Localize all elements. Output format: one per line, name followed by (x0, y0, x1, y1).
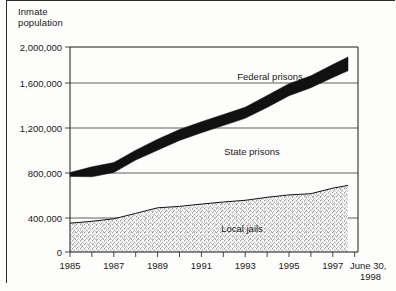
x-tick-label: 1993 (235, 260, 256, 271)
x-axis-tick-labels: 1985 1987 1989 1991 1993 1995 1997 (59, 260, 343, 271)
x-tick-label: 1987 (103, 260, 124, 271)
local-jails-area (70, 185, 348, 252)
y-tick-label: 400,000 (28, 213, 62, 224)
inmate-population-chart-figure: Inmate population (0, 0, 396, 291)
y-tick-label: 1,200,000 (20, 123, 62, 134)
x-tick-label: 1997 (322, 260, 343, 271)
y-tick-marks (65, 47, 70, 252)
x-axis-end-note: June 30, 1998 (350, 260, 386, 282)
state-prisons-label: State prisons (224, 146, 280, 157)
end-note-line-2: 1998 (360, 271, 381, 282)
end-note-line-1: June 30, (350, 260, 386, 271)
federal-prisons-label: Federal prisons (237, 71, 303, 82)
y-tick-label: 1,600,000 (20, 78, 62, 89)
x-tick-marks (70, 252, 355, 257)
local-jails-label: Local jails (221, 223, 263, 234)
x-tick-label: 1985 (59, 260, 80, 271)
chart-plot-area: 2,000,000 1,600,000 1,200,000 800,000 40… (0, 0, 396, 291)
x-tick-label: 1991 (191, 260, 212, 271)
x-tick-label: 1995 (278, 260, 299, 271)
y-axis-tick-labels: 2,000,000 1,600,000 1,200,000 800,000 40… (20, 42, 62, 258)
total-prisons-band (70, 57, 348, 177)
y-tick-label: 2,000,000 (20, 42, 62, 53)
y-tick-label: 800,000 (28, 168, 62, 179)
x-tick-label: 1989 (147, 260, 168, 271)
y-tick-label: 0 (57, 247, 62, 258)
